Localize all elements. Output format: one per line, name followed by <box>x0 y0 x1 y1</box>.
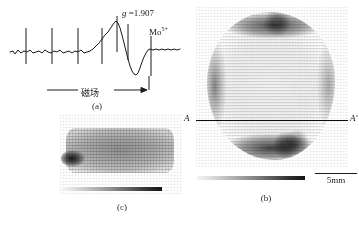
g-value-number: =1.907 <box>127 8 155 18</box>
intensity-gradient-bar-c <box>62 187 162 191</box>
species-label: Mo5+ <box>149 26 168 37</box>
epr-intensity-texture-c <box>66 128 174 173</box>
magnetic-field-axis-label: 磁场 <box>81 86 99 99</box>
section-label-A-prime: A' <box>350 113 357 123</box>
intensity-gradient-bar-b <box>197 176 305 180</box>
scale-bar-rule <box>315 173 357 174</box>
panel-c-caption: (c) <box>102 202 142 212</box>
panel-c-epr-image: (c) <box>60 114 185 226</box>
species-symbol: Mo <box>149 27 162 37</box>
epr-image-circular: A A' <box>196 7 348 167</box>
g-value-label: g =1.907 <box>122 8 154 18</box>
epr-image-rectangular <box>60 114 182 194</box>
panel-a-epr-spectrum: g =1.907 Mo5+ 磁场 (a) <box>4 2 186 114</box>
section-line-AA <box>196 120 348 121</box>
epr-intensity-hotspot <box>61 150 85 167</box>
species-charge: 5+ <box>162 26 168 32</box>
scale-bar-label: 5mm <box>315 175 357 185</box>
epr-intensity-speckle <box>207 12 335 160</box>
panel-b-epr-image: A A' 5mm (b) <box>190 3 356 229</box>
panel-b-caption: (b) <box>246 193 286 203</box>
panel-a-caption: (a) <box>82 101 112 111</box>
figure-container: g =1.907 Mo5+ 磁场 (a) A A' 5mm (b) <box>0 0 359 229</box>
marker-spikes <box>26 16 151 76</box>
scale-bar-b: 5mm <box>315 173 357 185</box>
